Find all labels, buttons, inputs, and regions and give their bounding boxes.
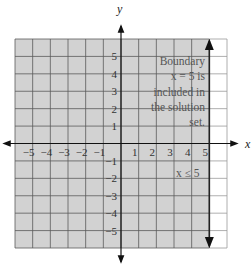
y-tick-label: 4 [112,68,118,80]
y-tick-label: 2 [112,103,118,115]
x-tick-label: 2 [150,146,156,158]
annotation-line-1: Boundary [160,55,206,68]
y-tick-label: −3 [105,190,117,202]
y-tick-label: −1 [105,155,117,167]
annotation-line-4: the solution [151,101,205,113]
y-tick-label: 1 [112,120,118,132]
y-tick-label: −2 [105,172,117,184]
y-axis-label: y [116,2,123,16]
region-label: x ≤ 5 [176,167,200,179]
annotation-line-3: included in [154,86,206,98]
x-tick-label: 1 [132,146,138,158]
x-tick-label: −3 [58,146,70,158]
x-tick-label: −1 [93,146,105,158]
y-tick-label: −5 [105,225,117,237]
x-tick-label: −2 [76,146,88,158]
annotation-line-2: x = 5 is [171,70,206,82]
y-tick-label: 5 [112,50,118,62]
x-tick-label: −4 [40,146,52,158]
inequality-graph: −5−4−3−2−11234554321−1−2−3−4−5 y x x ≤ 5… [0,0,252,266]
x-tick-label: 5 [203,146,209,158]
y-tick-label: 3 [112,85,118,97]
y-tick-label: −4 [105,207,117,219]
x-axis-label: x [244,137,251,151]
x-tick-label: −5 [23,146,35,158]
x-tick-label: 4 [185,146,191,158]
x-tick-label: 3 [167,146,173,158]
annotation-line-5: set. [189,116,205,128]
